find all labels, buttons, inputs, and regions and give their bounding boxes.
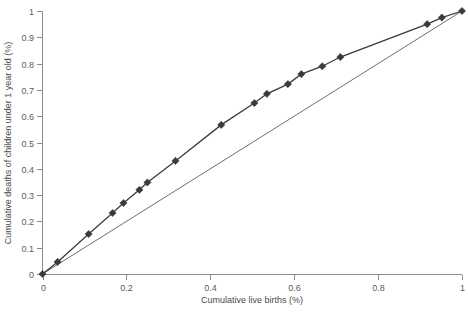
y-tick-label: 0.1: [21, 244, 34, 254]
chart-canvas: 00.10.20.30.40.50.60.70.80.91 00.20.40.6…: [0, 0, 468, 315]
x-tick-label: 0.2: [120, 283, 133, 293]
y-tick-label: 0.6: [21, 112, 34, 122]
y-tick-label: 0.7: [21, 86, 34, 96]
y-tick-label: 0.2: [21, 217, 34, 227]
line-of-equality: [43, 11, 463, 274]
data-point-marker: [458, 7, 465, 14]
y-tick-label: 0.8: [21, 60, 34, 70]
y-tick-label: 0.4: [21, 165, 34, 175]
data-point-marker: [424, 21, 431, 28]
x-tick-label: 0.4: [204, 283, 217, 293]
lorenz-curve-chart: 00.10.20.30.40.50.60.70.80.91 00.20.40.6…: [0, 0, 468, 315]
y-tick-label: 0.3: [21, 191, 34, 201]
y-tick-label: 1: [29, 7, 34, 17]
x-tick-group: 00.20.40.60.81: [41, 275, 465, 294]
x-tick-label: 0.6: [288, 283, 301, 293]
x-tick-label: 1: [460, 283, 465, 293]
data-point-marker: [438, 14, 445, 21]
data-point-marker: [337, 53, 344, 60]
x-axis-title: Cumulative live births (%): [201, 295, 303, 305]
y-axis-title: Cumulative deaths of children under 1 ye…: [3, 42, 13, 245]
x-tick-label: 0.8: [372, 283, 385, 293]
x-tick-label: 0: [41, 283, 46, 293]
data-point-marker: [319, 63, 326, 70]
y-tick-label: 0: [29, 270, 34, 280]
y-tick-group: 00.10.20.30.40.50.60.70.80.91: [21, 7, 42, 280]
y-tick-label: 0.9: [21, 33, 34, 43]
y-tick-label: 0.5: [21, 139, 34, 149]
